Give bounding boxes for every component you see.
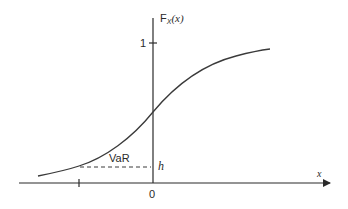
h-label: h: [158, 160, 164, 172]
x-axis-label: x: [317, 169, 321, 179]
y-tick-one-label: 1: [140, 38, 146, 49]
y-axis-label-main: F: [160, 12, 167, 24]
y-axis-label-arg: (x): [171, 12, 183, 24]
var-label: VaR: [109, 153, 130, 164]
origin-label: 0: [149, 189, 155, 200]
cdf-curve: [38, 49, 270, 176]
y-axis-label: FX(x): [160, 13, 184, 25]
cdf-diagram: [0, 0, 348, 209]
